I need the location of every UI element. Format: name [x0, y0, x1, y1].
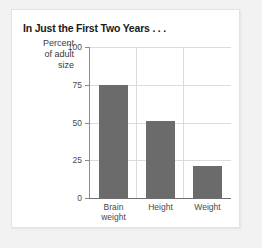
y-axis-title-line-3: size: [16, 60, 74, 71]
category-label-line-1: Weight: [184, 202, 231, 212]
plot-area: 100 75 50 25 0: [89, 47, 231, 198]
y-axis-title-line-1: Percent: [16, 38, 74, 49]
gridline-100: [89, 47, 231, 48]
category-label-line-1: Brain: [90, 202, 137, 212]
chart-title: In Just the First Two Years . . .: [23, 22, 166, 34]
y-axis-title-line-2: of adult: [16, 49, 74, 60]
y-axis-line: [89, 47, 90, 199]
category-label-weight: Weight: [184, 202, 231, 212]
y-tick-label-50: 50: [73, 118, 82, 128]
category-label-brain-weight: Brain weight: [90, 202, 137, 222]
y-tick-label-100: 100: [68, 42, 82, 52]
figure-card: In Just the First Two Years . . . Percen…: [11, 9, 240, 228]
y-tick-label-75: 75: [73, 80, 82, 90]
bar-brain-weight[interactable]: [99, 85, 128, 198]
bar-height[interactable]: [146, 121, 175, 198]
category-divider-2: [183, 47, 184, 198]
y-tick-label-25: 25: [73, 155, 82, 165]
x-axis-line: [89, 198, 231, 199]
bar-weight[interactable]: [193, 166, 222, 198]
category-divider-1: [136, 47, 137, 198]
y-axis-title: Percent of adult size: [16, 38, 74, 71]
category-label-line-1: Height: [137, 202, 184, 212]
category-label-line-2: weight: [90, 212, 137, 222]
y-tick-label-0: 0: [77, 193, 82, 203]
category-label-height: Height: [137, 202, 184, 212]
